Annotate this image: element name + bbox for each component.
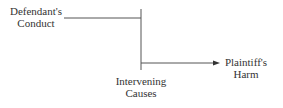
defendants-conduct-label: Defendant's Conduct bbox=[10, 5, 62, 29]
plaintiff-line2: Harm bbox=[222, 68, 270, 80]
plaintiffs-harm-label: Plaintiff's Harm bbox=[222, 56, 270, 80]
intervening-causes-label: Intervening Causes bbox=[113, 75, 169, 99]
defendant-line1: Defendant's bbox=[10, 5, 62, 17]
plaintiff-line1: Plaintiff's bbox=[222, 56, 270, 68]
intervening-line2: Causes bbox=[113, 87, 169, 99]
intervening-line1: Intervening bbox=[113, 75, 169, 87]
arrowhead-icon bbox=[213, 61, 220, 66]
defendant-line2: Conduct bbox=[10, 17, 62, 29]
